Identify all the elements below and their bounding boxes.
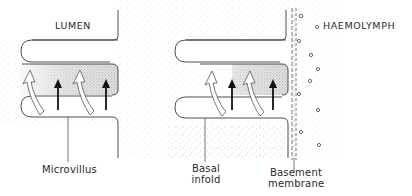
diagram-canvas: LUMEN HAEMOLYMPH Microvillus Basal infol… [0,0,412,196]
lumen-label: LUMEN [55,20,91,31]
microvillus-label: Microvillus [42,164,97,175]
basement-membrane-label-line1: Basement [268,167,324,178]
basement-membrane-label-line2: membrane [268,178,324,189]
basal-infold-label-line1: Basal [188,163,224,174]
basal-infold-label-line2: infold [188,174,224,185]
haemolymph-label: HAEMOLYMPH [323,20,395,31]
basement-membrane-label: Basement membrane [268,167,324,189]
basal-infold-label: Basal infold [188,163,224,185]
